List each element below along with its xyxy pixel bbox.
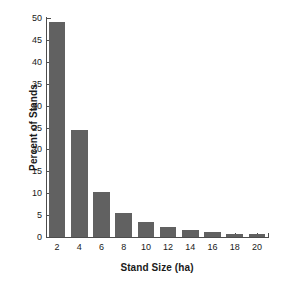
x-tick-label: 6 [99, 242, 104, 252]
bar [249, 234, 265, 237]
bar [226, 234, 242, 238]
bar [93, 192, 109, 237]
x-axis-line [46, 237, 269, 238]
y-tick-label: 5 [0, 210, 42, 220]
y-tick-label: 15 [0, 166, 42, 176]
x-tick-label: 18 [230, 242, 240, 252]
bar [138, 222, 154, 237]
x-tick-label: 10 [141, 242, 151, 252]
bar [49, 22, 65, 237]
x-tick-mark [268, 233, 269, 237]
x-tick-label: 2 [55, 242, 60, 252]
y-tick-label: 45 [0, 35, 42, 45]
bar [160, 227, 176, 237]
y-tick-label: 35 [0, 79, 42, 89]
bar [71, 130, 87, 237]
bar [182, 230, 198, 237]
x-tick-label: 4 [77, 242, 82, 252]
y-tick-label: 30 [0, 101, 42, 111]
bar [115, 213, 131, 237]
y-tick-label: 20 [0, 144, 42, 154]
bar-chart-figure: Percent of Stands 05101520253035404550 2… [0, 0, 281, 297]
y-tick-label: 40 [0, 57, 42, 67]
x-tick-label: 14 [185, 242, 195, 252]
x-axis-title: Stand Size (ha) [46, 262, 268, 273]
bar [204, 232, 220, 237]
y-tick-label: 50 [0, 13, 42, 23]
y-tick-label: 10 [0, 188, 42, 198]
x-tick-label: 20 [252, 242, 262, 252]
x-tick-label: 12 [163, 242, 173, 252]
x-tick-label: 8 [121, 242, 126, 252]
x-tick-label: 16 [207, 242, 217, 252]
y-tick-label: 25 [0, 123, 42, 133]
bar-series [46, 18, 268, 237]
y-tick-label: 0 [0, 232, 42, 242]
y-tick-mark [47, 237, 51, 238]
